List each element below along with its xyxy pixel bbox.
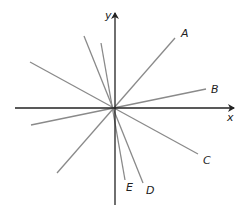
- line-a: [57, 38, 175, 173]
- lines-group: [30, 36, 206, 183]
- line-label-a: A: [180, 27, 189, 40]
- diagram-svg: x y ABCDE: [0, 0, 248, 216]
- diagram-canvas: x y ABCDE: [0, 0, 248, 216]
- line-labels-group: ABCDE: [126, 27, 219, 197]
- line-label-c: C: [203, 154, 211, 167]
- x-axis-label: x: [226, 111, 234, 124]
- line-label-e: E: [126, 181, 133, 194]
- line-label-b: B: [211, 83, 219, 96]
- line-b: [31, 89, 206, 125]
- y-axis-label: y: [104, 9, 112, 22]
- line-d: [84, 36, 143, 183]
- line-label-d: D: [146, 184, 154, 197]
